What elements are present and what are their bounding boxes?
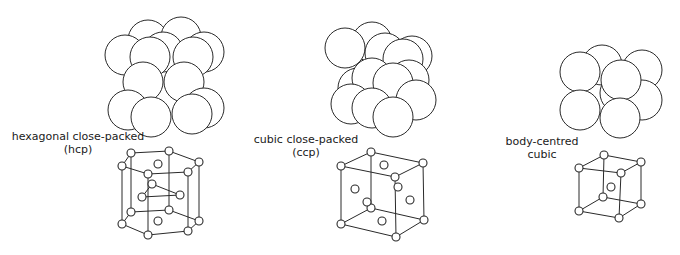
- bcc-structure: body-centred cubic: [505, 45, 662, 222]
- hcp-unit-cell: [118, 147, 203, 239]
- bcc-body-centre-atom: [607, 183, 615, 191]
- ccp-label-abbrev: (ccp): [292, 146, 320, 159]
- bcc-label-name: body-centred: [505, 135, 578, 148]
- hcp-sphere-packing: [105, 17, 224, 137]
- bcc-sphere-packing: [560, 45, 662, 138]
- bcc-label: body-centred cubic: [505, 135, 578, 161]
- ccp-label: cubic close-packed (ccp): [254, 133, 358, 159]
- hcp-structure: hexagonal close-packed (hcp): [12, 17, 224, 239]
- hcp-label-name: hexagonal close-packed: [12, 130, 145, 143]
- hcp-label: hexagonal close-packed (hcp): [12, 130, 145, 156]
- ccp-structure: cubic close-packed (ccp): [254, 22, 436, 241]
- bcc-unit-cell: [575, 151, 645, 222]
- ccp-sphere-packing: [325, 22, 436, 137]
- ccp-label-name: cubic close-packed: [254, 133, 358, 146]
- bcc-label-abbrev: cubic: [527, 148, 556, 161]
- hcp-label-abbrev: (hcp): [64, 143, 93, 156]
- crystal-structures-diagram: hexagonal close-packed (hcp): [0, 0, 680, 255]
- ccp-unit-cell: [337, 148, 428, 241]
